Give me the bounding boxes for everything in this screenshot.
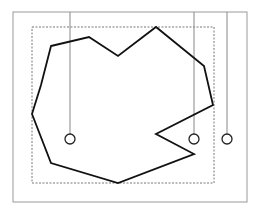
test-points [65,134,232,144]
polygon-shape [32,27,213,183]
test-point-p2 [189,134,199,144]
test-point-p1 [65,134,75,144]
ray-lines [70,12,227,134]
test-point-p3 [222,134,232,144]
diagram-canvas [0,0,260,213]
bounding-box-dashed [32,27,214,183]
outer-frame [13,12,247,202]
